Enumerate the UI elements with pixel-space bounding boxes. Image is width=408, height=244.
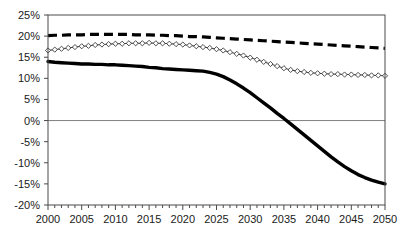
y-axis-ticks: [44, 15, 48, 205]
x-tick-label: 2035: [272, 213, 296, 225]
y-tick-label: -20%: [14, 199, 40, 211]
x-tick-label: 2045: [339, 213, 363, 225]
x-tick-label: 2025: [204, 213, 228, 225]
x-tick-label: 2050: [373, 213, 397, 225]
y-tick-label: 25%: [18, 9, 40, 21]
x-tick-label: 2005: [69, 213, 93, 225]
line-chart: 25%20%15%10%5%0%-5%-10%-15%-20% 20002005…: [0, 0, 408, 244]
y-axis-labels: 25%20%15%10%5%0%-5%-10%-15%-20%: [14, 9, 40, 211]
y-tick-label: 5%: [24, 93, 40, 105]
x-tick-label: 2020: [171, 213, 195, 225]
x-tick-label: 2000: [36, 213, 60, 225]
y-tick-label: -5%: [20, 136, 40, 148]
x-tick-label: 2015: [137, 213, 161, 225]
x-tick-label: 2040: [305, 213, 329, 225]
y-tick-label: 15%: [18, 51, 40, 63]
x-axis-labels: 2000200520102015202020252030203520402045…: [36, 213, 397, 225]
x-tick-label: 2030: [238, 213, 262, 225]
x-tick-label: 2010: [103, 213, 127, 225]
y-tick-label: -10%: [14, 157, 40, 169]
y-tick-label: 20%: [18, 30, 40, 42]
y-tick-label: 10%: [18, 72, 40, 84]
x-axis-ticks: [48, 205, 385, 210]
y-tick-label: 0%: [24, 115, 40, 127]
y-tick-label: -15%: [14, 178, 40, 190]
chart-container: 25%20%15%10%5%0%-5%-10%-15%-20% 20002005…: [0, 0, 408, 244]
plot-background: [48, 15, 385, 205]
